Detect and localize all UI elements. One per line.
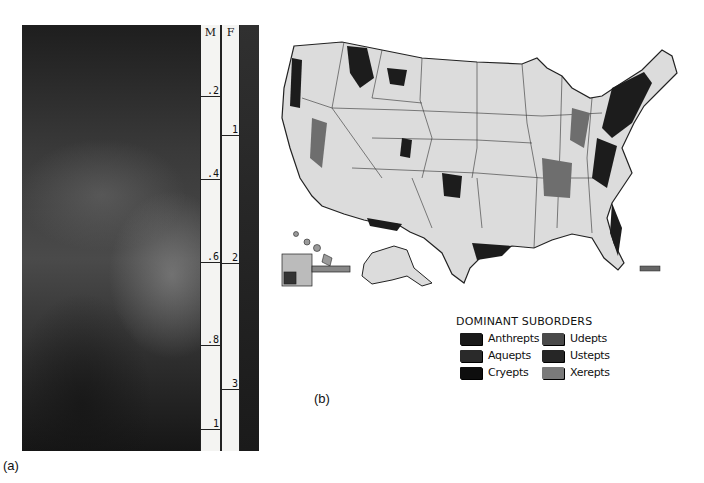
legend-item-cryepts: Cryepts bbox=[460, 366, 542, 379]
legend-label: Aquepts bbox=[488, 349, 531, 362]
soil-profile-photo: M .2 .4 .6 .8 1 F 1 2 3 bbox=[22, 25, 259, 451]
legend-swatch bbox=[542, 367, 564, 379]
legend-swatch bbox=[460, 350, 482, 362]
foot-tape: F 1 2 3 bbox=[221, 25, 240, 451]
legend-label: Udepts bbox=[570, 332, 607, 345]
legend-item-udepts: Udepts bbox=[542, 332, 622, 345]
map-legend: DOMINANT SUBORDERS Anthrepts Udepts Aque… bbox=[460, 315, 622, 379]
legend-item-xerepts: Xerepts bbox=[542, 366, 622, 379]
foot-tick: 1 bbox=[222, 124, 239, 136]
legend-swatch bbox=[542, 333, 564, 345]
puerto-rico bbox=[640, 266, 660, 271]
legend-item-anthrepts: Anthrepts bbox=[460, 332, 542, 345]
meter-tape: M .2 .4 .6 .8 1 bbox=[200, 25, 221, 451]
alaska-outline bbox=[362, 246, 432, 286]
legend-label: Ustepts bbox=[570, 349, 610, 362]
meter-tick: .4 bbox=[201, 168, 220, 180]
legend-swatch bbox=[542, 350, 564, 362]
photo-edge-shadow bbox=[237, 25, 259, 451]
meter-tick: .2 bbox=[201, 85, 220, 97]
foot-tape-header: F bbox=[222, 26, 239, 39]
legend-label: Cryepts bbox=[488, 366, 528, 379]
legend-item-aquepts: Aquepts bbox=[460, 349, 542, 362]
legend-title: DOMINANT SUBORDERS bbox=[456, 315, 622, 328]
meter-tick: 1 bbox=[201, 418, 220, 430]
foot-tick: 3 bbox=[222, 378, 239, 390]
legend-label: Anthrepts bbox=[488, 332, 539, 345]
legend-label: Xerepts bbox=[570, 366, 610, 379]
meter-tick: .6 bbox=[201, 251, 220, 263]
legend-swatch bbox=[460, 367, 482, 379]
foot-tick: 2 bbox=[222, 252, 239, 264]
territory-insets bbox=[282, 254, 350, 286]
meter-tape-header: M bbox=[201, 26, 220, 39]
panel-a-label: (a) bbox=[3, 458, 19, 473]
meter-tick: .8 bbox=[201, 334, 220, 346]
legend-swatch bbox=[460, 333, 482, 345]
legend-item-ustepts: Ustepts bbox=[542, 349, 622, 362]
panel-b-label: (b) bbox=[314, 391, 330, 406]
us-inceptisol-map bbox=[272, 28, 687, 288]
